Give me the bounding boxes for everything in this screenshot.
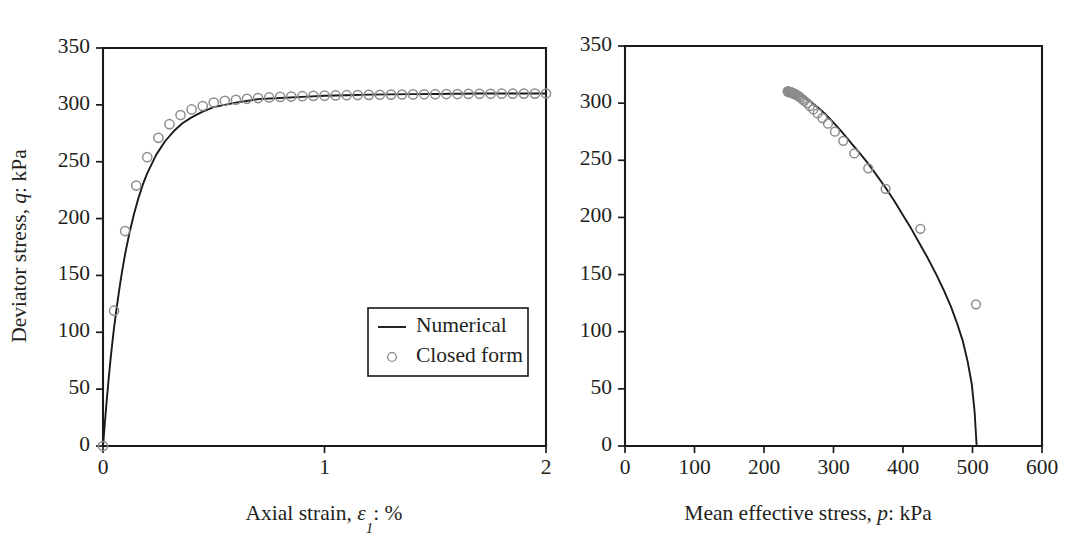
series-numerical-line xyxy=(788,92,977,446)
chart-panel-stress-path: 050100150200250300350 010020030040050060… xyxy=(558,0,1084,559)
legend: NumericalClosed form xyxy=(368,308,528,376)
closed-form-marker xyxy=(265,93,274,102)
closed-form-marker xyxy=(916,224,925,233)
x-tick-label: 200 xyxy=(748,455,780,479)
y-tick-label: 200 xyxy=(580,203,612,227)
series-numerical-line xyxy=(103,93,546,446)
closed-form-marker xyxy=(850,149,859,158)
y-tick-label: 150 xyxy=(580,261,612,285)
closed-form-marker xyxy=(198,101,207,110)
x-tick-label: 2 xyxy=(541,455,552,479)
axis-frame xyxy=(103,48,546,446)
y-tick-label: 350 xyxy=(58,34,90,58)
y-tick-label: 300 xyxy=(58,91,90,115)
figure-container: 050100150200250300350 012 NumericalClose… xyxy=(0,0,1084,559)
x-axis-title-axial-strain: Axial strain, ε1: % xyxy=(246,501,403,536)
x-tick-label: 500 xyxy=(956,455,988,479)
closed-form-marker xyxy=(242,94,251,103)
x-tick-label: 100 xyxy=(678,455,710,479)
numerical-curve xyxy=(103,93,546,446)
title-tail: : kPa xyxy=(7,149,31,193)
x-tick-label: 0 xyxy=(98,455,109,479)
numerical-curve xyxy=(788,92,977,446)
y-axis-title-deviator-stress: Deviator stress, q: kPa xyxy=(7,149,31,343)
y-tick-label: 100 xyxy=(58,318,90,342)
x-tick-label: 400 xyxy=(887,455,919,479)
axis-frame xyxy=(625,46,1042,446)
axis-frame-box xyxy=(103,48,546,446)
x-tick-label: 1 xyxy=(319,455,330,479)
stress-strain-chart: 050100150200250300350 012 NumericalClose… xyxy=(0,0,558,559)
x-tick-label: 300 xyxy=(817,455,849,479)
closed-form-marker xyxy=(109,306,118,315)
y-tick-label: 150 xyxy=(58,261,90,285)
x-axis-ticks: 012 xyxy=(98,446,552,479)
y-tick-label: 250 xyxy=(58,148,90,172)
closed-form-marker xyxy=(824,119,833,128)
stress-path-chart: 050100150200250300350 010020030040050060… xyxy=(558,0,1084,559)
y-tick-label: 350 xyxy=(580,32,612,56)
y-tick-label: 0 xyxy=(601,432,612,456)
title-subscript: 1 xyxy=(366,520,374,536)
y-axis-ticks: 050100150200250300350 xyxy=(580,32,625,456)
x-tick-label: 600 xyxy=(1026,455,1058,479)
y-tick-label: 300 xyxy=(580,89,612,113)
x-axis-ticks: 0100200300400500600 xyxy=(620,446,1059,479)
closed-form-marker xyxy=(176,110,185,119)
y-tick-label: 50 xyxy=(69,375,91,399)
closed-form-marker xyxy=(839,136,848,145)
y-tick-label: 50 xyxy=(591,375,613,399)
y-tick-label: 0 xyxy=(79,432,90,456)
closed-form-marker xyxy=(154,133,163,142)
closed-form-marker xyxy=(187,105,196,114)
plot-area-left: 050100150200250300350 012 NumericalClose… xyxy=(58,34,552,479)
x-tick-label: 0 xyxy=(620,455,631,479)
title-symbol: q xyxy=(7,193,31,204)
title-tail: : % xyxy=(373,501,402,525)
title-lead: Axial strain, xyxy=(246,501,358,525)
title-symbol: p xyxy=(875,501,888,525)
series-closed-form-markers xyxy=(98,89,550,451)
y-tick-label: 200 xyxy=(58,205,90,229)
x-axis-title-mean-effective-stress: Mean effective stress, p: kPa xyxy=(684,501,932,525)
y-axis-ticks: 050100150200250300350 xyxy=(58,34,103,456)
series-closed-form-markers xyxy=(783,87,980,309)
plot-area-right: 050100150200250300350 010020030040050060… xyxy=(580,32,1058,479)
closed-form-marker xyxy=(165,120,174,129)
title-lead: Deviator stress, xyxy=(7,204,31,343)
closed-form-marker xyxy=(972,300,981,309)
closed-form-marker xyxy=(143,153,152,162)
closed-form-marker xyxy=(209,98,218,107)
closed-form-marker xyxy=(830,127,839,136)
legend-entry-label: Closed form xyxy=(416,343,523,367)
legend-entry-label: Numerical xyxy=(416,313,507,337)
closed-form-marker xyxy=(132,181,141,190)
closed-form-marker xyxy=(253,93,262,102)
closed-form-marker xyxy=(276,92,285,101)
chart-panel-stress-strain: 050100150200250300350 012 NumericalClose… xyxy=(0,0,558,559)
title-lead: Mean effective stress, xyxy=(684,501,877,525)
y-tick-label: 250 xyxy=(580,146,612,170)
title-tail: : kPa xyxy=(888,501,932,525)
y-tick-label: 100 xyxy=(580,318,612,342)
axis-frame-box xyxy=(625,46,1042,446)
closed-form-marker xyxy=(121,226,130,235)
